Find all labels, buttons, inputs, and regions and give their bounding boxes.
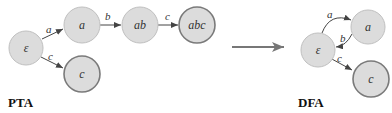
dfa-node-c: c — [353, 61, 389, 97]
pta-edge-eps-a-label: a — [46, 23, 52, 35]
dfa-node-eps: ε — [301, 33, 335, 67]
dfa-graph: a b c ε a c DFA — [298, 8, 389, 110]
dfa-caption: DFA — [298, 95, 324, 110]
pta-node-c-label: c — [79, 67, 85, 81]
dfa-edge-eps-c-label: c — [337, 52, 342, 64]
dfa-edge-eps-a — [322, 18, 351, 33]
pta-node-ab: ab — [122, 7, 158, 43]
dfa-edge-a-eps-label: b — [340, 32, 346, 44]
pta-node-c: c — [64, 56, 100, 92]
pta-node-eps: ε — [9, 31, 43, 65]
dfa-edge-eps-a-label: a — [327, 8, 333, 20]
pta-node-abc-label: abc — [188, 18, 206, 32]
pta-edge-ab-abc-label: c — [165, 10, 170, 22]
pta-node-a-label: a — [79, 18, 85, 32]
dfa-node-c-label: c — [368, 72, 374, 86]
pta-edge-a-ab-label: b — [105, 10, 111, 22]
dfa-node-a-label: a — [365, 20, 371, 34]
pta-edge-eps-c-label: c — [48, 50, 53, 62]
pta-node-a: a — [64, 7, 100, 43]
dfa-node-a: a — [351, 10, 385, 44]
dfa-node-eps-label: ε — [316, 43, 321, 57]
pta-node-ab-label: ab — [134, 18, 146, 32]
diagram-canvas: a b c c ε a ab abc c PTA — [0, 0, 392, 113]
pta-graph: a b c c ε a ab abc c PTA — [8, 7, 215, 110]
pta-caption: PTA — [8, 95, 34, 110]
pta-node-eps-label: ε — [24, 41, 29, 55]
pta-node-abc: abc — [179, 7, 215, 43]
